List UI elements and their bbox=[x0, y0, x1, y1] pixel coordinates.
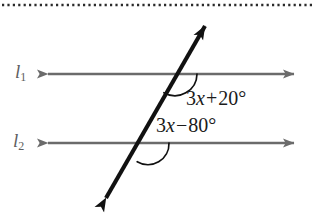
transversal-line bbox=[106, 26, 205, 198]
line-label-l2-subscript: 2 bbox=[18, 139, 24, 153]
angle-bottom-coefficient: 3 bbox=[156, 114, 166, 136]
degree-symbol-icon: ° bbox=[208, 114, 216, 136]
degree-symbol-icon: ° bbox=[238, 87, 246, 109]
geometry-figure: l1 l2 3x+20° 3x−80° bbox=[0, 0, 315, 221]
angle-top-constant: 20 bbox=[218, 87, 238, 109]
angle-label-top: 3x+20° bbox=[186, 88, 246, 108]
angle-label-bottom: 3x−80° bbox=[156, 115, 216, 135]
angle-top-operator: + bbox=[205, 87, 218, 109]
line-label-l1: l1 bbox=[15, 62, 26, 83]
angle-bottom-variable: x bbox=[166, 114, 175, 136]
angle-top-variable: x bbox=[196, 87, 205, 109]
angle-bottom-constant: 80 bbox=[188, 114, 208, 136]
line-label-l1-subscript: 1 bbox=[20, 70, 26, 84]
angle-arc-bottom bbox=[137, 143, 169, 165]
angle-top-coefficient: 3 bbox=[186, 87, 196, 109]
line-label-l2: l2 bbox=[13, 131, 24, 152]
figure-canvas bbox=[0, 0, 315, 221]
angle-bottom-operator: − bbox=[175, 114, 188, 136]
